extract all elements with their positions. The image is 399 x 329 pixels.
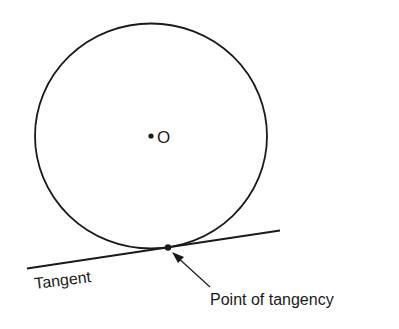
point-of-tangency-label: Point of tangency <box>210 291 334 308</box>
tangent-diagram: O Tangent Point of tangency <box>0 0 399 329</box>
tangency-point <box>165 244 171 250</box>
center-label: O <box>157 128 170 147</box>
tangent-line <box>27 231 280 269</box>
arrow-shaft <box>176 256 210 287</box>
tangent-label: Tangent <box>33 268 92 292</box>
diagram-canvas: O Tangent Point of tangency <box>0 0 399 329</box>
center-point <box>148 133 153 138</box>
